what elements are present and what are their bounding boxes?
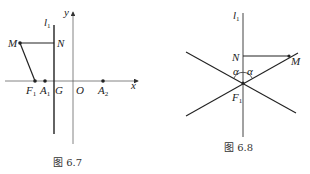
- figure-6-7: y x l1 M N F1 A1 G O A2 图 6.7: [5, 6, 138, 168]
- label-x: x: [130, 79, 136, 91]
- label-A1: A1: [39, 84, 51, 98]
- label-A2: A2: [97, 84, 109, 98]
- caption-figure-6-7: 图 6.7: [53, 157, 82, 168]
- label-y: y: [63, 6, 69, 18]
- label-l1: l1: [233, 9, 240, 23]
- label-M: M: [290, 55, 301, 67]
- label-N: N: [56, 37, 65, 49]
- label-M: M: [7, 37, 18, 49]
- point-A2: [101, 79, 105, 83]
- figures-canvas: y x l1 M N F1 A1 G O A2 图 6.7 l1 N M α α…: [0, 0, 310, 174]
- label-G: G: [55, 84, 63, 96]
- point-M: [18, 41, 22, 45]
- label-l1: l1: [44, 16, 51, 30]
- label-alpha-right: α: [247, 65, 253, 77]
- point-F1: [33, 79, 37, 83]
- figure-6-8: l1 N M α α F1 图 6.8: [186, 9, 301, 153]
- point-F1: [241, 81, 244, 84]
- segment-MF1: [20, 43, 35, 81]
- label-O: O: [76, 84, 84, 96]
- caption-figure-6-8: 图 6.8: [224, 142, 253, 153]
- label-F1: F1: [231, 91, 243, 105]
- asymptote-line-2: [186, 53, 298, 116]
- label-F1: F1: [25, 84, 37, 98]
- label-N: N: [231, 51, 240, 63]
- label-alpha-left: α: [233, 65, 239, 77]
- point-A1: [43, 79, 47, 83]
